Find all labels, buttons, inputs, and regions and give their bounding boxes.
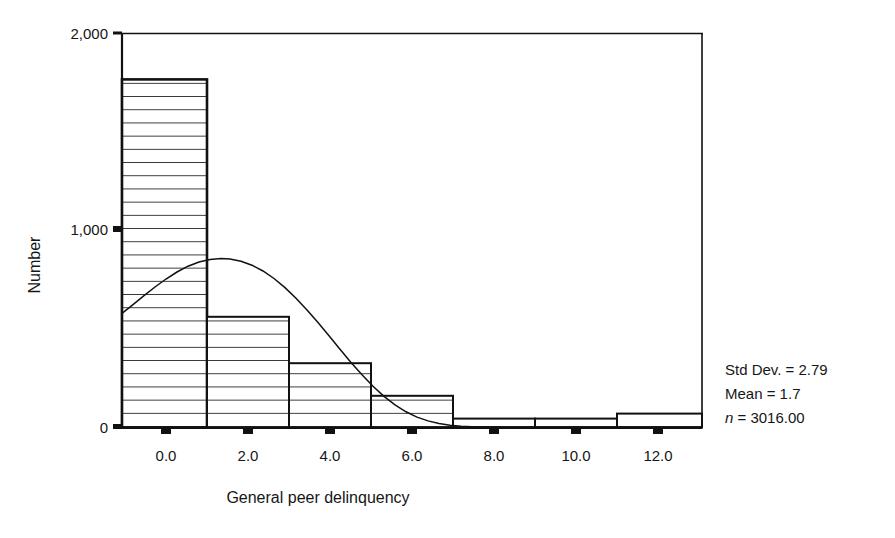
x-tick-labels: 0.0 2.0 4.0 6.0 8.0 10.0 12.0 [156, 447, 673, 464]
x-tick-label-4: 8.0 [484, 447, 505, 464]
y-tick-label-2000: 2,000 [70, 25, 108, 42]
bar-bin-2 [207, 317, 289, 428]
x-tick-label-3: 6.0 [402, 447, 423, 464]
y-axis-title: Number [26, 236, 43, 294]
y-tick-label-1000: 1,000 [70, 221, 108, 238]
x-axis-ticks [161, 429, 663, 434]
x-tick-label-5: 10.0 [561, 447, 590, 464]
bar-bin-4 [371, 396, 453, 428]
x-tick-label-6: 12.0 [643, 447, 672, 464]
y-axis-ticks [113, 32, 122, 430]
bar-bin-7 [617, 414, 702, 428]
histogram-bars [122, 79, 702, 427]
histogram-figure: Number 2,000 1,000 0 [0, 0, 895, 538]
n-annotation: n = 3016.00 [725, 409, 805, 426]
n-symbol: n [725, 409, 733, 426]
statistics-annotation: Std Dev. = 2.79 Mean = 1.7 n = 3016.00 [725, 361, 828, 426]
x-tick-label-2: 4.0 [320, 447, 341, 464]
bar-bin-3 [289, 363, 371, 427]
x-axis-title: General peer delinquency [226, 489, 409, 506]
chart-canvas: Number 2,000 1,000 0 [0, 0, 895, 538]
y-tick-label-0: 0 [100, 419, 108, 436]
x-tick-label-1: 2.0 [238, 447, 259, 464]
n-value: = 3016.00 [733, 409, 804, 426]
mean-annotation: Mean = 1.7 [725, 385, 800, 402]
std-dev-annotation: Std Dev. = 2.79 [725, 361, 828, 378]
x-tick-label-0: 0.0 [156, 447, 177, 464]
bar-bin-1 [122, 79, 207, 427]
bar-bin-6 [535, 419, 617, 428]
